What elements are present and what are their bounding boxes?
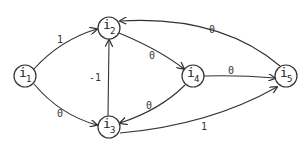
- node-subscript: 5: [287, 74, 292, 84]
- node-subscript: 3: [110, 125, 115, 135]
- node-i4: i 4: [182, 65, 204, 87]
- edge-i1-i2: 1: [34, 29, 97, 69]
- edge-weight: 0: [57, 108, 63, 119]
- edge-i4-i5: 0: [204, 65, 275, 78]
- node-i2: i 2: [98, 17, 120, 39]
- edge-weight: -1: [89, 72, 101, 83]
- edge-weight: 1: [57, 34, 63, 45]
- node-i3: i 3: [98, 116, 120, 138]
- node-subscript: 1: [26, 74, 31, 84]
- edge-i2-i4: 0: [119, 33, 184, 69]
- edge-weight: 0: [209, 24, 215, 35]
- edge-weight: 0: [146, 100, 152, 111]
- edge-i5-i2: 0: [120, 20, 280, 66]
- graph-diagram: 1 0 -1 0 0 0 0 1 i 1 i 2 i 3: [0, 0, 305, 146]
- edge-weight: 0: [228, 65, 234, 76]
- edge-i3-i5: 1: [120, 87, 277, 133]
- edge-i3-i2: -1: [89, 40, 109, 116]
- node-subscript: 2: [110, 26, 115, 36]
- edge-i1-i3: 0: [34, 84, 97, 125]
- node-subscript: 4: [194, 74, 199, 84]
- edge-weight: 1: [201, 121, 207, 132]
- node-i5: i 5: [275, 65, 297, 87]
- edge-i4-i3: 0: [120, 85, 185, 123]
- node-i1: i 1: [14, 65, 36, 87]
- edge-weight: 0: [149, 50, 155, 61]
